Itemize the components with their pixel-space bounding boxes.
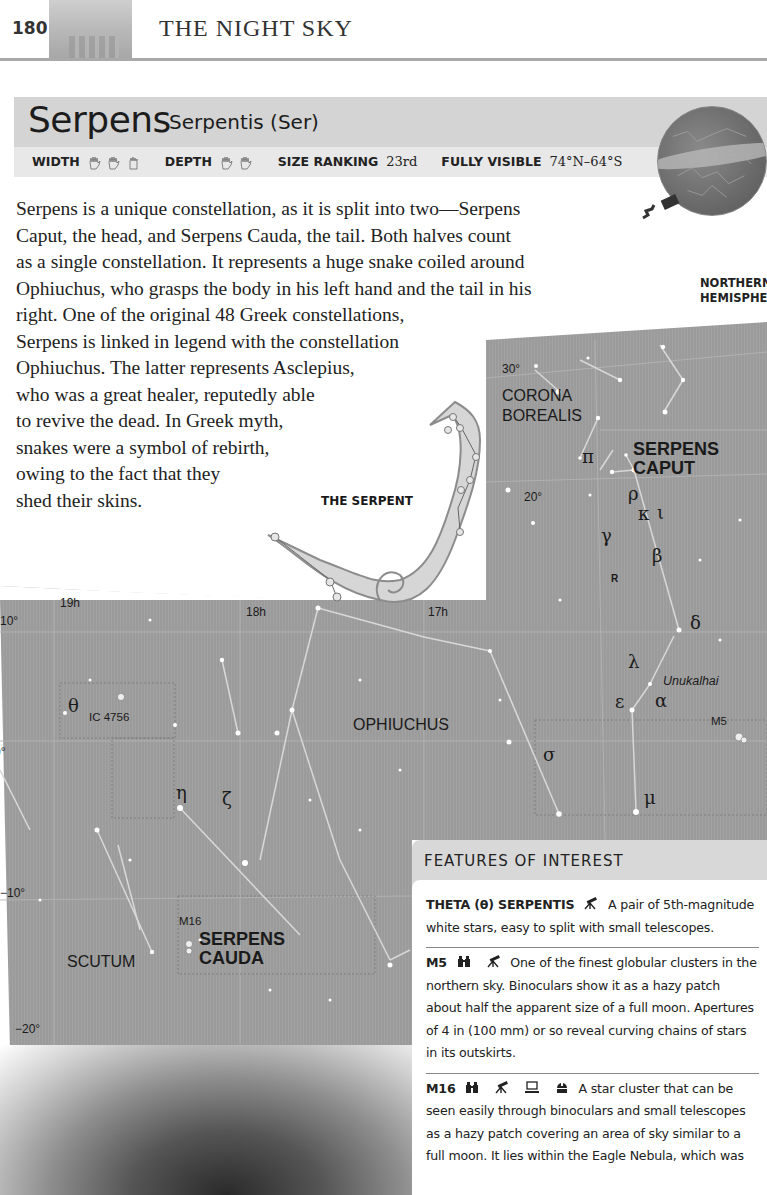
size-ranking-label: SIZE RANKING <box>278 154 378 169</box>
title-band: Serpens Serpentis (Ser) <box>14 97 767 147</box>
telescope-icon <box>583 895 599 908</box>
star-eta: η <box>176 782 187 803</box>
camera-icon <box>524 1079 540 1092</box>
body-line: owing to the fact that they <box>16 461 532 488</box>
star-r: R <box>611 573 618 584</box>
star-sigma: σ <box>543 744 555 765</box>
star-pi: π <box>582 446 594 467</box>
width-label: WIDTH <box>32 154 80 169</box>
label-corona-borealis-1: CORONA <box>502 387 572 405</box>
feature-item-m5: M5 One of the finest globular clusters i… <box>426 948 759 1074</box>
eagle-nebula-photo <box>0 1045 412 1195</box>
label-serpens-caput-1: SERPENS <box>633 440 719 459</box>
star-lambda: λ <box>628 651 639 672</box>
star-delta: δ <box>690 612 701 633</box>
body-line: Serpens is linked in legend with the con… <box>16 329 532 356</box>
size-ranking-value: 23rd <box>386 154 417 169</box>
constellation-locator-marker <box>640 193 690 223</box>
star-beta: β <box>652 545 662 566</box>
body-line: snakes were a symbol of rebirth, <box>16 435 532 462</box>
label-scutum: SCUTUM <box>67 953 135 971</box>
body-line: as a single constellation. It represents… <box>16 249 532 276</box>
running-header: 180 THE NIGHT SKY <box>0 0 767 60</box>
label-corona-borealis-2: BOREALIS <box>502 407 582 425</box>
width-hands <box>88 154 141 170</box>
star-zeta: ζ <box>222 788 232 809</box>
dec-label-30: 30° <box>502 362 520 376</box>
binoculars-icon <box>456 953 472 966</box>
fully-visible-label: FULLY VISIBLE <box>441 154 541 169</box>
feature-item-m16: M16 A star cluster that can be seen easi… <box>426 1074 759 1176</box>
label-serpens-caput-2: CAPUT <box>633 459 695 478</box>
star-rho: ρ <box>628 483 639 504</box>
binoculars-icon <box>464 1079 480 1092</box>
fully-visible-value: 74°N–64°S <box>549 154 622 169</box>
feature-name: M5 <box>426 955 447 970</box>
body-line: Caput, the head, and Serpens Cauda, the … <box>16 223 532 250</box>
ra-label-19h: 19h <box>60 596 80 610</box>
body-line: who was a great healer, reputedly able <box>16 382 532 409</box>
features-list: THETA (θ) SERPENTIS A pair of 5th-magnit… <box>412 880 767 1195</box>
star-alpha: α <box>655 690 667 711</box>
dso-m16: M16 <box>179 915 201 927</box>
serpent-illustration-caption: THE SERPENT <box>321 494 413 508</box>
body-line: shed their skins. <box>16 488 532 515</box>
dec-label-minus10: −10° <box>0 886 25 900</box>
body-line: Ophiuchus. The latter represents Asclepi… <box>16 355 532 382</box>
header-photo-thumbnail <box>49 0 132 58</box>
features-of-interest-panel: FEATURES OF INTEREST THETA (θ) SERPENTIS… <box>412 840 767 1195</box>
star-theta: θ <box>68 695 79 716</box>
label-serpens-cauda-1: SERPENS <box>199 930 285 949</box>
star-iota: ι <box>657 502 664 523</box>
dec-label-10: 10° <box>0 614 18 628</box>
body-text: Serpens is a unique constellation, as it… <box>16 196 532 514</box>
hand-icon <box>88 156 103 170</box>
dec-label-minus20: −20° <box>15 1022 40 1036</box>
features-heading: FEATURES OF INTEREST <box>424 852 624 870</box>
stats-row: WIDTH DEPTH SIZE RANKING 23rd FULLY VISI… <box>32 154 622 170</box>
dec-label-20: 20° <box>524 490 542 504</box>
ra-label-18h: 18h <box>246 605 266 619</box>
telescope-icon <box>486 953 502 966</box>
page-number: 180 <box>12 18 48 38</box>
hand-icon <box>107 156 122 170</box>
hand-icon <box>220 156 235 170</box>
telescope-icon <box>494 1079 510 1092</box>
star-epsilon: ε <box>615 691 624 712</box>
dec-label-0: 0° <box>0 745 5 759</box>
depth-hands <box>220 154 254 170</box>
globe-caption: NORTHERN HEMISPHERE <box>700 276 767 306</box>
feature-name: M16 <box>426 1081 455 1096</box>
body-line: to revive the dead. In Greek myth, <box>16 408 532 435</box>
label-serpens-cauda-2: CAUDA <box>199 949 264 968</box>
feature-item-theta-serpentis: THETA (θ) SERPENTIS A pair of 5th-magnit… <box>426 890 759 948</box>
depth-label: DEPTH <box>165 154 212 169</box>
body-line: Ophiuchus, who grasps the body in his le… <box>16 276 532 303</box>
feature-text: One of the finest globular clusters in t… <box>426 955 757 1060</box>
header-divider <box>0 58 767 61</box>
stats-band: WIDTH DEPTH SIZE RANKING 23rd FULLY VISI… <box>14 147 767 177</box>
star-kappa: κ <box>638 503 649 524</box>
hand-icon <box>126 156 141 170</box>
star-mu: μ <box>644 787 656 808</box>
body-line: right. One of the original 48 Greek cons… <box>16 302 532 329</box>
feature-name: THETA (θ) SERPENTIS <box>426 897 574 912</box>
dso-m5: M5 <box>711 715 727 727</box>
label-ophiuchus: OPHIUCHUS <box>353 716 449 734</box>
observatory-icon <box>554 1079 570 1092</box>
dso-ic4756: IC 4756 <box>89 711 129 723</box>
hand-icon <box>239 156 254 170</box>
body-line: Serpens is a unique constellation, as it… <box>16 196 532 223</box>
constellation-name: Serpens <box>28 99 171 140</box>
section-title: THE NIGHT SKY <box>159 15 353 42</box>
star-gamma: γ <box>601 525 612 546</box>
constellation-genitive: Serpentis (Ser) <box>169 110 319 134</box>
ra-label-17h: 17h <box>428 605 448 619</box>
star-name-unukalhai: Unukalhai <box>663 674 719 688</box>
